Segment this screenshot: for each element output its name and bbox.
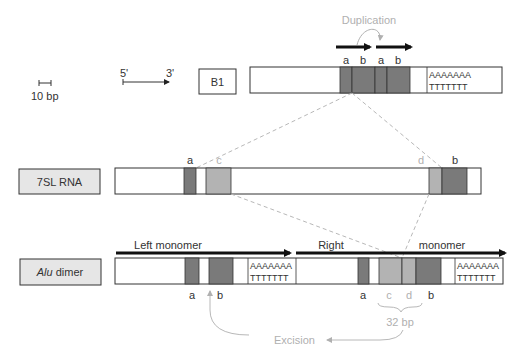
- sl7-segment-b: [442, 168, 467, 194]
- sl7-segment-c: [206, 168, 231, 194]
- alu-right-segment-c: [379, 258, 402, 284]
- alu-left-segment-b: [209, 258, 233, 284]
- alu-label-left-b: b: [217, 289, 223, 301]
- sl7-label-c: c: [216, 154, 222, 166]
- sl7-segment-a: [184, 168, 196, 194]
- alu-label-right-d: d: [406, 289, 412, 301]
- duplication-curve-arrow: [357, 29, 380, 45]
- b1-polyA: AAAAAAA: [429, 70, 471, 80]
- direction-arrow: [123, 79, 169, 85]
- three-prime-label: 3': [166, 67, 174, 79]
- alu-right-segment-a: [358, 258, 369, 284]
- scale-label: 10 bp: [31, 90, 59, 102]
- b1-label-b2: b: [395, 54, 401, 66]
- b1-segment-b1: [352, 67, 375, 93]
- alu-label-left-a: a: [189, 289, 196, 301]
- b1-label: B1: [211, 76, 224, 88]
- alu-right-segment-b: [416, 258, 441, 284]
- b1-label-b1: b: [360, 54, 366, 66]
- alu-evolution-diagram: 10 bp 5' 3' B1 AAAAAAA TTTTTTT a b a b D…: [0, 0, 519, 355]
- sl7-label-d: d: [418, 154, 424, 166]
- alu-label-right-c: c: [386, 289, 392, 301]
- five-prime-label: 5': [120, 67, 128, 79]
- duplication-label: Duplication: [342, 14, 396, 26]
- sl7-label-b: b: [452, 154, 458, 166]
- left-monomer-label: Left monomer: [134, 239, 202, 251]
- alu-left-polyA: AAAAAAA: [250, 261, 292, 271]
- alu-right-segment-d: [402, 258, 416, 284]
- right-label: Right: [318, 239, 344, 251]
- dashed-link: [352, 93, 442, 168]
- b1-segment-a1: [340, 67, 352, 93]
- b1-label-a1: a: [343, 54, 350, 66]
- excision-label: Excision: [274, 334, 315, 346]
- alu-right-polyT: TTTTTTT: [457, 273, 496, 283]
- bracket-label: 32 bp: [386, 316, 414, 328]
- b1-label-a2: a: [378, 54, 385, 66]
- dashed-link: [231, 194, 402, 258]
- monomer-label: monomer: [419, 239, 466, 251]
- alu-left-polyT: TTTTTTT: [250, 273, 289, 283]
- alu-sequence-bar: [115, 258, 503, 284]
- alu-label-right-b: b: [428, 289, 434, 301]
- sl7-label: 7SL RNA: [37, 176, 83, 188]
- scale-bar: [39, 80, 51, 86]
- sl7-segment-d: [429, 168, 442, 194]
- b1-segment-b2: [387, 67, 410, 93]
- sl7-sequence-bar: [115, 168, 481, 194]
- alu-label: Alu dimer: [36, 266, 84, 278]
- alu-label-right-a: a: [360, 289, 367, 301]
- b1-segment-a2: [375, 67, 387, 93]
- b1-polyT: TTTTTTT: [429, 82, 468, 92]
- excision-curve-arrow: [210, 291, 249, 335]
- sl7-label-a: a: [187, 154, 194, 166]
- alu-right-polyA: AAAAAAA: [457, 261, 499, 271]
- excision-arrow: [327, 330, 403, 340]
- alu-left-segment-a: [185, 258, 199, 284]
- bracket-32bp: [378, 303, 422, 312]
